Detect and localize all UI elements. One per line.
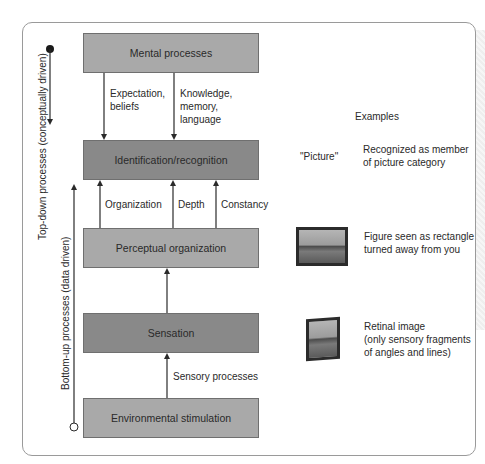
label-top-down-processes: Top-down processes (conceptually driven) <box>37 53 48 240</box>
label-depth: Depth <box>178 198 205 211</box>
label-constancy: Constancy <box>221 198 268 211</box>
retinal-image-picture <box>306 317 340 361</box>
example-recognized-text: Recognized as member of picture category <box>363 143 469 169</box>
example-retinal-text: Retinal image (only sensory fragments of… <box>364 320 471 359</box>
example-figure-text: Figure seen as rectangle turned away fro… <box>364 230 474 256</box>
box-label: Mental processes <box>130 47 212 59</box>
box-label: Perceptual organization <box>116 242 226 254</box>
box-identification-recognition: Identification/recognition <box>83 140 259 180</box>
box-label: Identification/recognition <box>114 154 227 166</box>
box-environmental-stimulation: Environmental stimulation <box>83 398 259 438</box>
box-label: Sensation <box>148 327 195 339</box>
box-perceptual-organization: Perceptual organization <box>83 228 259 268</box>
label-organization: Organization <box>105 198 162 211</box>
label-sensory-processes: Sensory processes <box>173 370 258 383</box>
label-expectation-beliefs: Expectation, beliefs <box>110 87 165 113</box>
examples-heading: Examples <box>355 110 399 123</box>
label-bottom-up-processes: Bottom-up processes (data driven) <box>60 237 71 390</box>
label-knowledge-memory-language: Knowledge, memory, language <box>180 87 232 126</box>
box-label: Environmental stimulation <box>111 412 231 424</box>
box-mental-processes: Mental processes <box>83 33 259 73</box>
box-sensation: Sensation <box>83 313 259 353</box>
picture-rectangle-image <box>296 227 348 266</box>
example-picture-word: "Picture" <box>300 150 338 163</box>
